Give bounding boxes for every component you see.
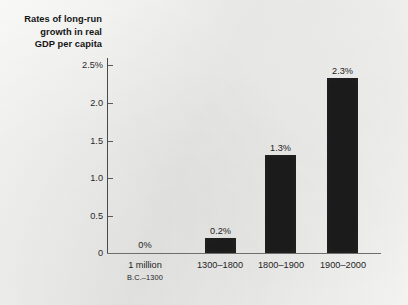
- y-axis-tick-label: 0.5: [43, 211, 103, 221]
- x-axis-label-1-line2: B.C.–1300: [110, 272, 180, 285]
- bar-1300-1800: [205, 238, 236, 253]
- bar-value-label: 0.2%: [193, 226, 248, 236]
- y-axis-tick-label: 2.5%: [43, 60, 103, 70]
- bar-value-label: 0%: [118, 240, 172, 250]
- x-axis-label-3-line1: 1800–1900: [246, 259, 316, 272]
- y-axis-tick: [108, 216, 113, 217]
- y-axis-tick-label: 2.0: [43, 98, 103, 108]
- x-axis-label-3: 1800–1900: [246, 259, 316, 272]
- x-axis-line: [107, 253, 381, 254]
- x-axis-label-2-line1: 1300–1800: [185, 259, 255, 272]
- y-axis-tick-label: 1.5: [43, 136, 103, 146]
- x-axis-label-4: 1900–2000: [307, 259, 379, 272]
- y-axis-tick: [108, 103, 113, 104]
- y-axis-tick: [108, 65, 113, 66]
- bar-chart-figure: Rates of long-run growth in real GDP per…: [0, 0, 408, 305]
- x-axis-label-4-line1: 1900–2000: [307, 259, 379, 272]
- chart-title: Rates of long-run growth in real GDP per…: [8, 13, 102, 51]
- x-axis-label-1-line1: 1 million: [110, 259, 180, 272]
- bar-value-label: 2.3%: [315, 66, 370, 76]
- y-axis-tick: [108, 178, 113, 179]
- y-axis-tick: [108, 141, 113, 142]
- y-axis-line: [107, 58, 108, 254]
- bar-1800-1900: [265, 155, 296, 253]
- y-axis-tick-label: 0: [43, 248, 103, 258]
- x-axis-label-2: 1300–1800: [185, 259, 255, 272]
- bar-1900-2000: [327, 78, 358, 253]
- bar-value-label: 1.3%: [253, 143, 308, 153]
- x-axis-label-1: 1 million B.C.–1300: [110, 259, 180, 284]
- y-axis-tick-label: 1.0: [43, 173, 103, 183]
